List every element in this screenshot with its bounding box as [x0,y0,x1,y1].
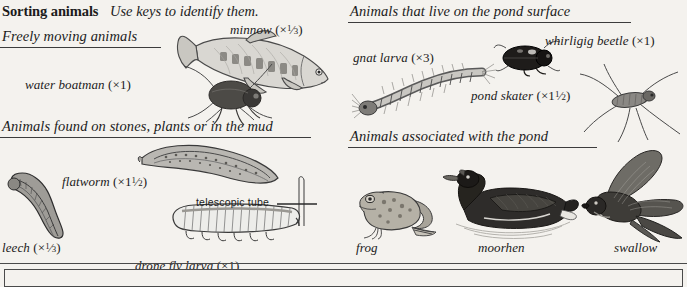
section-rule-associated-with-pond [348,147,597,148]
minnow-caption: minnow (×1⁄3) [230,22,303,38]
bottom-content-box [4,269,683,287]
section-heading-freely-moving: Freely moving animals [2,28,137,45]
moorhen-illustration [440,166,580,244]
telescopic-tube-annotation: telescopic tube [196,196,269,208]
bottom-divider-rule [0,263,687,264]
swallow-caption: swallow [614,240,657,256]
moorhen-caption: moorhen [478,240,525,256]
swallow-illustration [578,150,686,242]
telescopic-tube-leader-line [277,202,319,206]
section-heading-stones-plants-mud: Animals found on stones, plants or in th… [2,118,273,135]
pond-skater-caption: pond skater (×11⁄2) [471,88,571,104]
page-title: Sorting animals [2,3,98,20]
water-boatman-label: water boatman [25,77,105,92]
leech-caption: leech (×1⁄3) [2,240,61,256]
drone-fly-larva-illustration [160,178,330,248]
section-rule-pond-surface [348,22,631,23]
pond-skater-label: pond skater [471,88,533,103]
minnow-label: minnow [230,22,272,37]
frog-caption: frog [356,240,378,256]
gnat-larva-caption: gnat larva (×3) [353,50,434,66]
leech-illustration [6,170,82,242]
water-boatman-caption: water boatman (×1) [25,77,131,93]
leech-label: leech [2,240,30,255]
section-heading-pond-surface: Animals that live on the pond surface [350,3,570,20]
whirligig-beetle-label: whirligig beetle [545,33,629,48]
whirligig-beetle-caption: whirligig beetle (×1) [545,33,655,49]
section-rule-freely-moving [0,47,161,48]
pond-skater-illustration [578,62,687,142]
section-rule-stones-plants-mud [0,137,311,138]
section-heading-associated-with-pond: Animals associated with the pond [350,128,548,145]
gnat-larva-label: gnat larva [353,50,408,65]
frog-illustration [356,182,442,240]
